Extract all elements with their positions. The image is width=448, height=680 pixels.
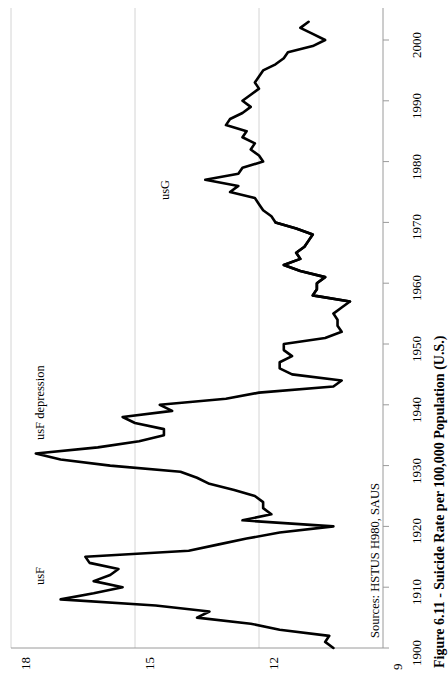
rate-tick-label: 15: [142, 657, 158, 670]
series-label-usf-depression-holder: usF depression: [30, 365, 48, 440]
year-tick-label: 1990: [409, 93, 425, 119]
series-label-usf-holder: usF: [30, 567, 48, 585]
year-tick-label: 1980: [409, 154, 425, 180]
year-tick-label: 1950: [409, 336, 425, 362]
series-label-usg-holder: usG: [155, 180, 173, 200]
sources-holder: Sources: HSTUS H980, SAUS: [365, 483, 383, 638]
rate-tick-label: 18: [18, 657, 34, 670]
year-tick-label: 1900: [409, 640, 425, 666]
year-tick-label: 1970: [409, 214, 425, 240]
series-label-usf-depression: usF depression: [33, 365, 47, 440]
year-tick-label: 1930: [409, 458, 425, 484]
figure-caption-holder: Figure 6.11 - Suicide Rate per 100,000 P…: [432, 336, 448, 668]
figure-caption: Figure 6.11 - Suicide Rate per 100,000 P…: [432, 336, 447, 668]
year-tick-label: 2000: [409, 32, 425, 58]
year-tick-label: 1910: [409, 579, 425, 605]
year-tick-label: 1960: [409, 275, 425, 301]
series-label-usg: usG: [158, 180, 172, 200]
year-tick-label: 1920: [409, 518, 425, 544]
series-label-usf: usF: [33, 567, 47, 585]
sources-label: Sources: HSTUS H980, SAUS: [368, 483, 382, 638]
rate-tick-label: 12: [266, 657, 282, 670]
rate-tick-label: 9: [390, 664, 406, 671]
year-tick-label: 1940: [409, 397, 425, 423]
